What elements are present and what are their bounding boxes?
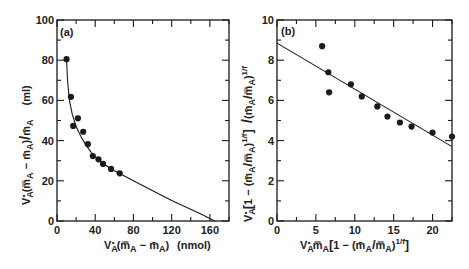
x-tick-label: 20 [426,224,438,236]
y-tick-label: 20 [42,175,54,187]
y-axis-label-a: VA•(m̿A − m̄A)/m̄A(ml) [16,85,35,205]
data-point [319,43,325,49]
x-axis-label-a: VA•(m̿A − m̄A)(nmol) [104,238,211,254]
data-point [70,123,76,129]
figure: 04080120160020406080100 (a) VA•(m̿A − m̄… [0,0,469,269]
y-tick-label: 10 [262,14,274,26]
y-tick-label: 8 [268,54,274,66]
fit-curve-a [67,59,215,221]
data-point [108,166,114,172]
data-point [397,119,403,125]
fit-line-b [277,43,452,147]
x-tick-label: 10 [349,224,361,236]
data-point [374,103,380,109]
data-point [408,123,414,129]
data-point [429,129,435,135]
data-points-b [319,43,455,140]
y-tick-label: 80 [42,54,54,66]
y-tick-label: 0 [48,215,54,227]
y-axis-label-b: VA•[1 − (m̄A/m̿A)1/f]/(m̄A/m̿A)1/f [238,66,257,222]
x-tick-label: 160 [201,224,219,236]
x-axis-label-b: VA•m̿A[1 − (m̄A/m̿A)1/f] [300,237,409,254]
y-tick-label: 60 [42,94,54,106]
data-point [325,69,331,75]
x-tick-label: 5 [313,224,319,236]
y-tick-label: 6 [268,94,274,106]
x-tick-label: 15 [388,224,400,236]
tick-labels-a: 04080120160020406080100 [36,14,219,236]
y-tick-label: 40 [42,135,54,147]
data-point [348,81,354,87]
panel-tag-a: (a) [60,26,74,38]
y-tick-label: 2 [268,175,274,187]
data-point [63,56,69,62]
svg-text:VA•[1 − (m̄A/m̿A)1/f]/(m̄A/m̿A: VA•[1 − (m̄A/m̿A)1/f]/(m̄A/m̿A)1/f [238,66,257,222]
data-point [75,115,81,121]
data-point [449,133,455,139]
data-point [80,129,86,135]
data-point [95,156,101,162]
data-point [85,141,91,147]
ticks-b [277,20,452,221]
panel-b: 051015200246810 (b) VA•m̿A[1 − (m̄A/m̿A)… [238,14,455,254]
plot-frame-a [57,20,229,221]
panel-a: 04080120160020406080100 (a) VA•(m̿A − m̄… [16,14,229,254]
x-tick-label: 80 [127,224,139,236]
data-point [100,161,106,167]
panel-tag-b: (b) [281,25,295,37]
data-point [359,93,365,99]
data-point [90,153,96,159]
x-tick-label: 0 [54,224,60,236]
plot-frame-b [277,20,452,221]
data-point [384,113,390,119]
x-tick-label: 40 [89,224,101,236]
y-tick-label: 0 [268,215,274,227]
y-tick-label: 100 [36,14,54,26]
x-tick-label: 0 [274,224,280,236]
data-point [326,89,332,95]
data-point [117,170,123,176]
data-point [68,94,74,100]
ticks-a [57,20,229,221]
svg-text:VA•(m̿A − m̄A)/m̄A(ml): VA•(m̿A − m̄A)/m̄A(ml) [16,85,35,205]
x-tick-label: 120 [162,224,180,236]
y-tick-label: 4 [268,135,275,147]
